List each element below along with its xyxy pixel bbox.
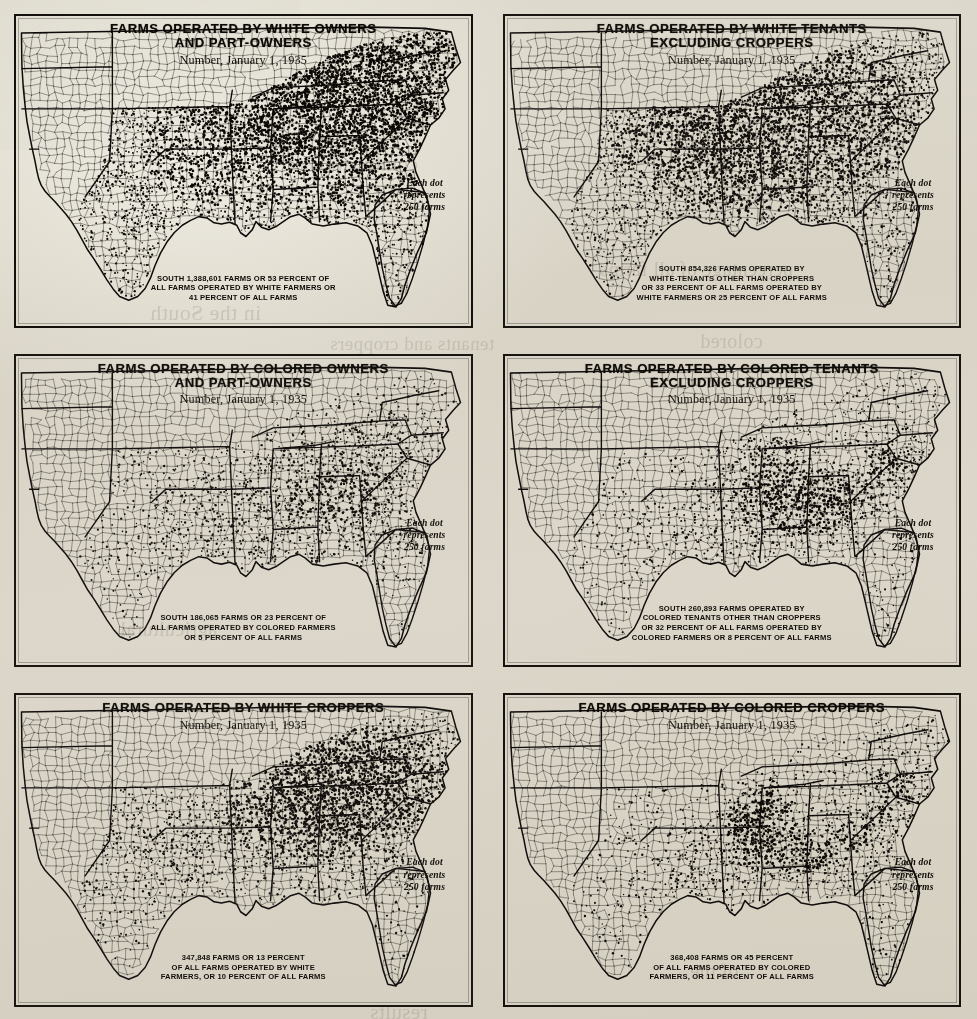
farm-dots bbox=[80, 713, 459, 977]
map-frame: FARMS OPERATED BY WHITE TENANTS EXCLUDIN… bbox=[503, 14, 962, 328]
county-lattice bbox=[22, 369, 455, 643]
dot-density-map bbox=[16, 695, 471, 1005]
map-plate-colored-tenants-excluding-croppers: FARMS OPERATED BY COLORED TENANTS EXCLUD… bbox=[489, 340, 977, 680]
dot-density-map bbox=[16, 16, 471, 326]
dot-density-map bbox=[505, 356, 960, 666]
farm-dots bbox=[79, 376, 458, 638]
county-lattice bbox=[511, 369, 945, 643]
dot-density-map bbox=[505, 16, 960, 326]
dot-density-map bbox=[16, 356, 471, 666]
map-frame: FARMS OPERATED BY COLORED CROPPERSNumber… bbox=[503, 693, 962, 1007]
map-plate-white-tenants-excluding-croppers: FARMS OPERATED BY WHITE TENANTS EXCLUDIN… bbox=[489, 0, 977, 340]
county-lattice bbox=[511, 709, 944, 982]
county-lattice bbox=[22, 709, 455, 983]
map-plate-white-croppers: FARMS OPERATED BY WHITE CROPPERSNumber, … bbox=[0, 679, 489, 1019]
map-plate-white-owners-and-part-owners: FARMS OPERATED BY WHITE OWNERS AND PART-… bbox=[0, 0, 489, 340]
map-frame: FARMS OPERATED BY WHITE CROPPERSNumber, … bbox=[14, 693, 473, 1007]
map-frame: FARMS OPERATED BY COLORED OWNERS AND PAR… bbox=[14, 354, 473, 668]
dot-density-map bbox=[505, 695, 960, 1005]
map-plate-colored-croppers: FARMS OPERATED BY COLORED CROPPERSNumber… bbox=[489, 679, 977, 1019]
map-plate-grid: FARMS OPERATED BY WHITE OWNERS AND PART-… bbox=[0, 0, 977, 1019]
map-frame: FARMS OPERATED BY WHITE OWNERS AND PART-… bbox=[14, 14, 473, 328]
map-plate-colored-owners-and-part-owners: FARMS OPERATED BY COLORED OWNERS AND PAR… bbox=[0, 340, 489, 680]
coastline-outline bbox=[510, 367, 949, 647]
map-frame: FARMS OPERATED BY COLORED TENANTS EXCLUD… bbox=[503, 354, 962, 668]
farm-dots bbox=[570, 373, 946, 637]
farm-dots bbox=[572, 715, 948, 978]
